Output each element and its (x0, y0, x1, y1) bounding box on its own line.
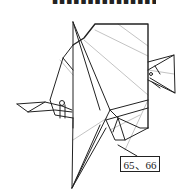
step-number-text: 65、66 (124, 156, 157, 172)
step-number-label: 65、66 (120, 156, 160, 172)
origami-diagram (0, 0, 189, 194)
